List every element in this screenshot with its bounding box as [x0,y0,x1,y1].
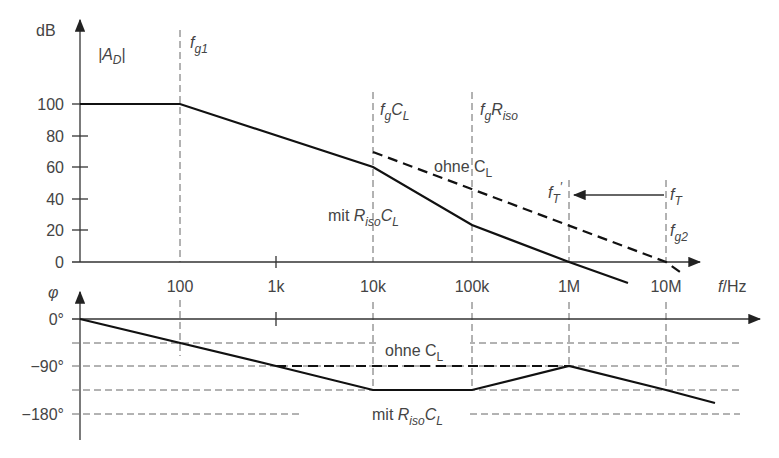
ad-label: |AD| [98,46,126,67]
ohne-cl-label: ohne CL [434,158,493,180]
ptick-90: −90° [30,358,64,375]
phi-label: φ [48,284,58,301]
db-axis-label: dB [36,22,56,39]
xtick-10M: 10M [650,278,681,295]
fgcl-label: fgCL [380,101,409,123]
mit-riso-cl-label: mit RisoCL [328,207,399,229]
fg2-label: fg2 [670,222,688,244]
xtick-1M: 1M [558,278,580,295]
ytick-40: 40 [46,191,64,208]
ptick-180: −180° [22,406,64,423]
ytick-80: 80 [46,128,64,145]
xtick-100k: 100k [455,278,491,295]
bode-diagram: 100 80 60 40 20 0 100 1k 10k 100k 1M 10M… [0,0,779,458]
fg1-label: fg1 [190,34,208,56]
ytick-0: 0 [55,254,64,271]
xtick-1k: 1k [268,278,286,295]
magnitude-curve-ohne-cl [373,152,680,272]
ytick-20: 20 [46,222,64,239]
xtick-100: 100 [167,278,194,295]
magnitude-curve-mit-riso-cl [80,104,628,283]
ft-label: fT [670,186,683,208]
xtick-10k: 10k [360,278,387,295]
ftp-label: fT′ [548,180,563,206]
fgriso-label: fgRiso [480,101,518,123]
ytick-100: 100 [37,96,64,113]
f-hz-label: f/Hz [718,278,746,295]
phase-plot: 0° −90° −180° φ ohne CL mit RisoCL [22,284,760,440]
ytick-60: 60 [46,159,64,176]
ptick-0: 0° [49,311,64,328]
magnitude-plot: 100 80 60 40 20 0 100 1k 10k 100k 1M 10M… [36,20,746,295]
